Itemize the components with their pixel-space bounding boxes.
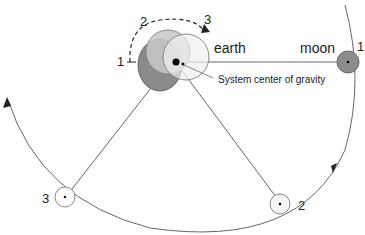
moon-position-2-center: [279, 203, 281, 205]
line-to-moon-3: [65, 70, 165, 198]
orbit-arrow-right-icon: [331, 163, 337, 173]
moon-pos-2-label: 2: [298, 198, 305, 213]
moon-position-3-center: [64, 196, 66, 198]
line-to-moon-2: [180, 68, 282, 205]
earth-label: earth: [214, 40, 246, 56]
earth-center-dot: [173, 59, 180, 66]
moon-position-1-center: [347, 61, 350, 64]
moon-pos-1-label: 1: [357, 39, 364, 54]
barycenter-label: System center of gravity: [218, 74, 325, 85]
moon-pos-3-label: 3: [42, 191, 49, 206]
earth-moon-barycenter-diagram: earth moon System center of gravity 1 2 …: [0, 0, 365, 235]
earth-pos-1-label: 1: [117, 54, 124, 69]
earth-pos-3-label: 3: [204, 12, 211, 27]
earth-pos-2-label: 2: [140, 14, 147, 29]
moon-label: moon: [300, 40, 335, 56]
